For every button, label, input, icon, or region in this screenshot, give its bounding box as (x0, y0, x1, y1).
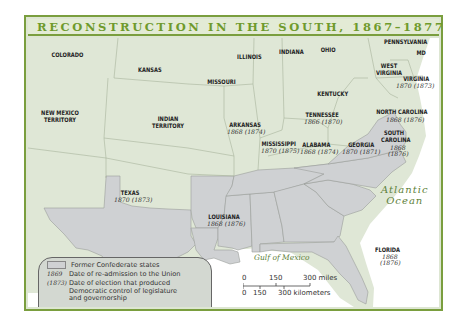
map-legend: Former Confederate states 1869Date of re… (38, 257, 212, 307)
label-kansas: KANSAS (138, 66, 162, 73)
title-bar: RECONSTRUCTION IN THE SOUTH, 1867–1877 (28, 19, 439, 36)
label-maryland: MD (416, 49, 425, 56)
label-pennsylvania: PENNSYLVANIA (384, 38, 427, 45)
label-illinois: ILLINOIS (237, 53, 262, 60)
label-colorado: COLORADO (51, 51, 83, 58)
label-indiana: INDIANA (279, 48, 304, 55)
legend-confederate: Former Confederate states (47, 261, 160, 269)
legend-democratic-control: (1873)Date of election that produced Dem… (47, 279, 177, 303)
map-frame: RECONSTRUCTION IN THE SOUTH, 1867–1877 (24, 15, 443, 311)
label-indian-territory: INDIAN TERRITORY (150, 115, 187, 129)
label-new-mexico-territory: NEW MEXICO TERRITORY (40, 109, 80, 123)
map-title: RECONSTRUCTION IN THE SOUTH, 1867–1877 (37, 20, 446, 34)
map-area: COLORADO KANSAS MISSOURI ILLINOIS INDIAN… (28, 38, 439, 307)
label-kentucky: KENTUCKY (317, 90, 348, 97)
gulf-of-mexico-label: Gulf of Mexico (254, 252, 310, 263)
atlantic-ocean-label: Atlantic Ocean (381, 184, 428, 206)
label-ohio: OHIO (321, 46, 336, 53)
confederate-swatch (47, 261, 66, 269)
label-missouri: MISSOURI (207, 78, 235, 85)
label-west-virginia: WEST VIRGINIA (371, 62, 408, 76)
legend-readmission: 1869Date of re-admission to the Union (47, 270, 181, 279)
